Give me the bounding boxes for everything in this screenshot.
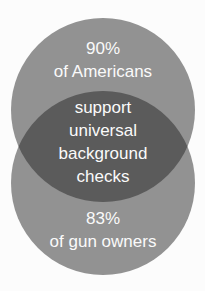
gun-owners-label: of gun owners [11, 230, 195, 253]
americans-label: of Americans [11, 60, 195, 83]
americans-label-block: 90% of Americans [11, 37, 195, 83]
venn-diagram: 90% of Americans support universal backg… [0, 0, 205, 291]
overlap-line-4: checks [11, 165, 195, 188]
gun-owners-stat: 83% [11, 207, 195, 230]
overlap-line-3: background [11, 142, 195, 165]
americans-stat: 90% [11, 37, 195, 60]
overlap-label-block: support universal background checks [11, 96, 195, 188]
overlap-line-1: support [11, 96, 195, 119]
overlap-line-2: universal [11, 119, 195, 142]
gun-owners-label-block: 83% of gun owners [11, 207, 195, 253]
